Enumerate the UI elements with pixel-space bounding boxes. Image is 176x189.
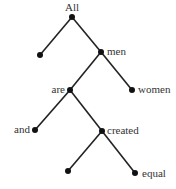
node-leaf-bottom [65,168,71,174]
tree-diagram: All men are women and created equal [0,0,176,189]
edge-men-are [70,52,101,90]
node-created [99,128,105,134]
edge-created-equal [102,131,135,173]
edge-all-leaf [40,17,72,55]
label-women: women [138,83,171,95]
node-all [69,14,75,20]
edge-are-and [35,90,70,130]
node-equal [132,170,138,176]
edges [35,17,135,173]
label-created: created [107,124,139,136]
node-and [32,127,38,133]
label-equal: equal [142,167,166,179]
label-all: All [65,1,79,13]
label-are: are [52,83,66,95]
edge-are-created [70,90,102,131]
label-men: men [107,45,126,57]
edge-created-leaf [68,131,102,171]
label-and: and [14,123,30,135]
edge-all-men [72,17,101,52]
edge-men-women [101,52,132,90]
node-are [67,87,73,93]
node-women [129,87,135,93]
node-leaf-left [37,52,43,58]
labels: All men are women and created equal [14,1,171,179]
node-men [98,49,104,55]
